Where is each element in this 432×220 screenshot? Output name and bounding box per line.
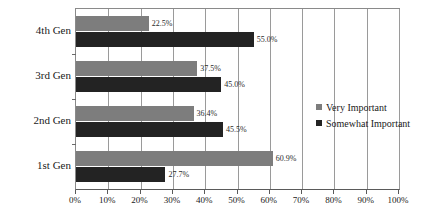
bar <box>76 106 194 121</box>
y-axis-category-label: 4th Gen <box>1 24 71 36</box>
x-axis-tick-label: 90% <box>357 195 374 205</box>
x-axis-tick <box>333 190 334 194</box>
y-axis-category-label: 3rd Gen <box>1 69 71 81</box>
x-axis-tick <box>107 190 108 194</box>
legend-label: Somewhat Important <box>326 118 410 129</box>
y-axis-tick <box>72 144 76 145</box>
bar-value-label: 37.5% <box>197 61 221 76</box>
bar-value-label: 22.5% <box>149 16 173 31</box>
legend-item[interactable]: Very Important <box>316 99 428 115</box>
x-axis-tick <box>172 190 173 194</box>
bar <box>76 122 223 137</box>
bar-group: 22.5%55.0% <box>76 9 399 54</box>
bar-value-label: 45.5% <box>223 122 247 137</box>
bar-value-label: 27.7% <box>165 167 189 182</box>
x-axis-tick-label: 10% <box>99 195 116 205</box>
bar <box>76 77 221 92</box>
x-axis-tick <box>301 190 302 194</box>
bar <box>76 32 254 47</box>
bar <box>76 151 273 166</box>
legend-label: Very Important <box>326 102 387 113</box>
x-axis-tick-label: 80% <box>325 195 342 205</box>
x-axis-tick <box>204 190 205 194</box>
x-axis-tick-label: 30% <box>164 195 181 205</box>
chart-legend: Very ImportantSomewhat Important <box>316 99 428 131</box>
x-axis-tick-label: 100% <box>388 195 409 205</box>
x-axis-tick-labels: 0%10%20%30%40%50%60%70%80%90%100% <box>75 195 401 209</box>
x-axis-tick <box>237 190 238 194</box>
bar-value-label: 55.0% <box>254 32 278 47</box>
y-axis-category-label: 2nd Gen <box>1 114 71 126</box>
x-axis-tick <box>269 190 270 194</box>
x-axis-tick-label: 60% <box>261 195 278 205</box>
x-axis-tick <box>140 190 141 194</box>
bar-group: 60.9%27.7% <box>76 144 399 189</box>
legend-item[interactable]: Somewhat Important <box>316 115 428 131</box>
x-axis-tick-label: 20% <box>131 195 148 205</box>
bar-value-label: 45.0% <box>221 77 245 92</box>
x-axis-tick-label: 0% <box>69 195 81 205</box>
horizontal-bar-chart: 4th Gen3rd Gen2nd Gen1st Gen 22.5%55.0%3… <box>0 0 432 220</box>
y-axis-category-label: 1st Gen <box>1 159 71 171</box>
bar-group: 37.5%45.0% <box>76 54 399 99</box>
bar <box>76 16 149 31</box>
x-axis-tick-label: 50% <box>228 195 245 205</box>
legend-swatch-icon <box>316 120 322 126</box>
legend-swatch-icon <box>316 104 322 110</box>
x-axis-tick <box>398 190 399 194</box>
x-axis-tick-label: 40% <box>196 195 213 205</box>
x-axis-tick <box>366 190 367 194</box>
x-axis-tick-label: 70% <box>293 195 310 205</box>
bar-value-label: 36.4% <box>194 106 218 121</box>
bar <box>76 61 197 76</box>
bar-value-label: 60.9% <box>273 151 297 166</box>
y-axis-tick <box>72 54 76 55</box>
y-axis-category-labels: 4th Gen3rd Gen2nd Gen1st Gen <box>0 8 71 190</box>
y-axis-tick <box>72 99 76 100</box>
x-axis-tick <box>75 190 76 194</box>
bar <box>76 167 165 182</box>
